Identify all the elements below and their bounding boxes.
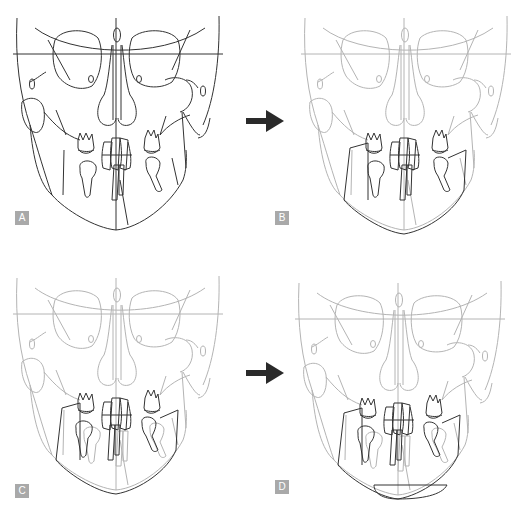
panel-label-b: B <box>275 211 289 225</box>
skull-tracing-a <box>0 0 240 240</box>
skull-tracing-d <box>290 265 528 505</box>
right-arrow-icon <box>246 362 286 384</box>
panel-b: B <box>290 0 528 250</box>
right-arrow-icon <box>246 110 286 132</box>
panel-d: D <box>290 265 528 505</box>
panel-label-c: C <box>15 484 29 498</box>
panel-c: C <box>0 260 240 505</box>
panel-label-d: D <box>275 480 289 494</box>
panel-a: A <box>0 0 240 240</box>
skull-tracing-b <box>290 0 528 250</box>
skull-tracing-c <box>0 260 240 505</box>
panel-label-a: A <box>15 211 29 225</box>
